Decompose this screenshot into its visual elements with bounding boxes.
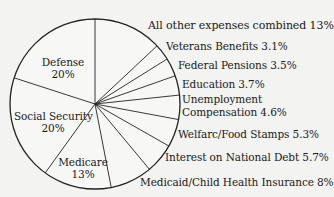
medicare-pct: 13% — [58, 168, 108, 180]
label-medicaid: Medicaid/Child Health Insurance 8% — [140, 176, 333, 188]
label-interest: Interest on National Debt 5.7% — [165, 151, 329, 163]
ss-name: Social Security — [14, 110, 92, 122]
label-social-security: Social Security 20% — [14, 110, 92, 134]
label-pensions: Federal Pensions 3.5% — [178, 59, 297, 71]
ss-pct: 20% — [14, 122, 92, 134]
label-all-other: All other expenses combined 13% — [148, 20, 334, 32]
label-welfare: Welfarc/Food Stamps 5.3% — [178, 128, 319, 140]
defense-name: Defense — [40, 56, 86, 68]
label-veterans: Veterans Benefits 3.1% — [166, 40, 288, 52]
medicare-name: Medicare — [58, 156, 108, 168]
defense-pct: 20% — [40, 68, 86, 80]
label-medicare: Medicare 13% — [58, 156, 108, 180]
label-education: Education 3.7% — [182, 78, 265, 90]
label-unemployment-2: Compensation 4.6% — [182, 106, 287, 118]
label-defense: Defense 20% — [40, 56, 86, 80]
label-unemployment-1: Unemployment — [182, 93, 262, 105]
